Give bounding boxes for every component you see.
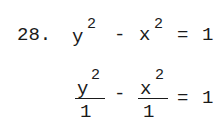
line1-rhs: 1 xyxy=(202,26,213,45)
frac2-bar xyxy=(138,98,168,99)
frac1-denominator: 1 xyxy=(80,103,91,122)
line2-equals: = xyxy=(177,89,188,108)
line1-y: y xyxy=(72,28,83,47)
line2-rhs: 1 xyxy=(202,89,213,108)
frac1-numerator-exponent: 2 xyxy=(91,68,100,83)
line1-y-exponent: 2 xyxy=(87,17,96,32)
line1-x: x xyxy=(139,26,150,45)
frac1-bar xyxy=(75,98,105,99)
line1-x-exponent: 2 xyxy=(154,17,163,32)
problem-number: 28. xyxy=(17,26,51,45)
line1-equals: = xyxy=(177,26,188,45)
line2-minus: - xyxy=(114,85,125,104)
frac2-numerator-exponent: 2 xyxy=(155,68,164,83)
line1-minus: - xyxy=(114,26,125,45)
frac2-denominator: 1 xyxy=(143,103,154,122)
frac2-numerator: x xyxy=(140,80,151,99)
frac1-numerator: y xyxy=(77,80,88,99)
